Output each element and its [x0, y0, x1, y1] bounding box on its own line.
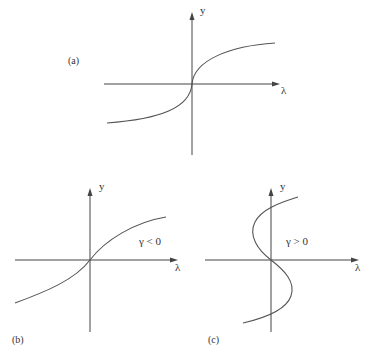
panel-c-annotation: γ > 0	[285, 235, 309, 247]
panel-a-y-arrow-icon	[190, 12, 195, 20]
panel-b-y-label: y	[99, 180, 105, 192]
panel-b-label: (b)	[12, 334, 24, 346]
panel-a-curve	[107, 43, 275, 123]
panel-b-annotation: γ < 0	[138, 235, 162, 247]
panel-c-y-arrow-icon	[269, 188, 274, 196]
panel-b: y λ γ < 0 (b)	[12, 180, 181, 346]
panel-a: y λ (a)	[68, 4, 287, 155]
panel-b-x-label: λ	[175, 261, 181, 273]
panel-c-y-label: y	[280, 180, 286, 192]
panel-c-label: (c)	[208, 334, 219, 346]
panel-a-x-arrow-icon	[272, 82, 280, 87]
panel-a-y-label: y	[200, 4, 206, 16]
panel-a-x-label: λ	[281, 84, 287, 96]
panel-a-label: (a)	[68, 55, 79, 67]
bifurcation-diagram: y λ (a) y λ γ < 0 (b) y λ γ > 0 (c)	[0, 0, 373, 358]
panel-c-x-label: λ	[355, 261, 361, 273]
panel-c: y λ γ > 0 (c)	[205, 180, 361, 346]
panel-b-y-arrow-icon	[88, 188, 93, 196]
